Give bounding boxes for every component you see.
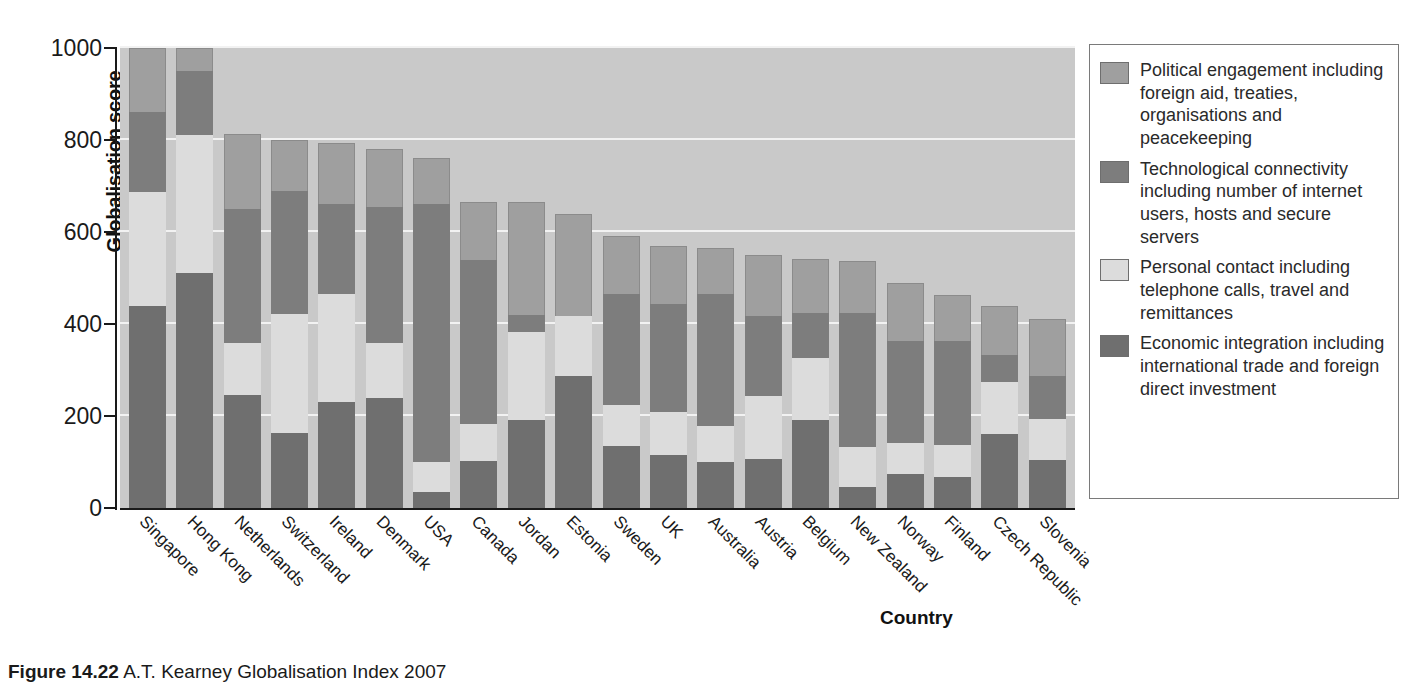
bar-segment-econ <box>650 455 687 508</box>
bar-segment-tech <box>413 204 450 462</box>
bar-segment-econ <box>129 306 166 508</box>
bar-segment-political <box>318 143 355 205</box>
legend-item-label: Political engagement including foreign a… <box>1140 59 1388 150</box>
bar-belgium[interactable] <box>792 259 829 508</box>
bar-segment-political <box>981 306 1018 355</box>
bar-segment-personal <box>650 412 687 455</box>
bar-segment-political <box>697 248 734 294</box>
bar-segment-tech <box>839 313 876 447</box>
y-tick-label-400: 400 <box>64 311 102 338</box>
bar-denmark[interactable] <box>366 149 403 508</box>
bar-segment-personal <box>460 424 497 461</box>
bar-segment-personal <box>603 405 640 445</box>
bar-segment-econ <box>224 395 261 508</box>
bar-estonia[interactable] <box>555 214 592 508</box>
bar-austria[interactable] <box>745 255 782 508</box>
bar-segment-political <box>934 295 971 341</box>
bar-netherlands[interactable] <box>224 134 261 508</box>
legend-swatch-icon-tech <box>1100 161 1129 183</box>
legend-item-0[interactable]: Political engagement including foreign a… <box>1100 59 1388 150</box>
bar-segment-econ <box>508 420 545 508</box>
bar-segment-tech <box>129 112 166 191</box>
bar-segment-tech <box>224 209 261 343</box>
bar-finland[interactable] <box>934 295 971 508</box>
gridline-800 <box>120 138 1075 140</box>
bar-segment-econ <box>934 477 971 508</box>
bar-segment-econ <box>555 376 592 508</box>
bar-segment-econ <box>460 461 497 508</box>
bar-segment-personal <box>366 343 403 398</box>
bar-slovenia[interactable] <box>1029 319 1066 508</box>
bar-segment-tech <box>508 315 545 332</box>
legend-swatch-icon-political <box>1100 62 1129 84</box>
gridline-200 <box>120 414 1075 416</box>
bar-segment-personal <box>745 396 782 459</box>
x-tick-label-estonia: Estonia <box>561 512 615 566</box>
bar-segment-econ <box>366 398 403 508</box>
y-axis-ticks: 10008006004002000 <box>42 30 116 520</box>
bar-segment-econ <box>176 273 213 508</box>
bar-segment-political <box>129 48 166 112</box>
bar-segment-political <box>224 134 261 209</box>
bar-segment-econ <box>271 433 308 508</box>
bar-segment-econ <box>318 402 355 508</box>
bar-segment-tech <box>650 304 687 412</box>
bar-czech-republic[interactable] <box>981 306 1018 508</box>
bar-segment-econ <box>792 420 829 508</box>
bar-new-zealand[interactable] <box>839 261 876 508</box>
bar-segment-political <box>1029 319 1066 376</box>
x-tick-label-finland: Finland <box>940 512 994 566</box>
gridline-400 <box>120 322 1075 324</box>
bar-canada[interactable] <box>460 202 497 508</box>
bar-segment-personal <box>129 192 166 306</box>
bar-ireland[interactable] <box>318 143 355 508</box>
bar-segment-tech <box>887 341 924 444</box>
legend-swatch-icon-personal <box>1100 259 1129 281</box>
gridline-1000 <box>120 46 1075 48</box>
bar-segment-tech <box>318 204 355 293</box>
bar-segment-econ <box>697 462 734 508</box>
bar-segment-personal <box>555 316 592 376</box>
bar-segment-tech <box>603 294 640 405</box>
bar-segment-political <box>792 259 829 312</box>
legend-item-label: Economic integration including internati… <box>1140 332 1388 400</box>
bar-segment-personal <box>934 445 971 476</box>
bar-segment-political <box>650 246 687 304</box>
bar-sweden[interactable] <box>603 236 640 508</box>
bar-segment-political <box>508 202 545 315</box>
bar-segment-personal <box>318 294 355 403</box>
bar-segment-econ <box>603 446 640 508</box>
bar-singapore[interactable] <box>129 48 166 508</box>
bar-segment-econ <box>413 492 450 508</box>
legend-item-1[interactable]: Technological connectivity including num… <box>1100 158 1388 249</box>
legend-item-3[interactable]: Economic integration including internati… <box>1100 332 1388 400</box>
bar-usa[interactable] <box>413 158 450 508</box>
bar-segment-political <box>413 158 450 204</box>
bar-uk[interactable] <box>650 246 687 508</box>
x-tick-label-belgium: Belgium <box>798 512 856 570</box>
bar-segment-tech <box>792 313 829 358</box>
bar-segment-political <box>271 140 308 191</box>
bar-australia[interactable] <box>697 248 734 508</box>
y-axis-line <box>115 47 117 510</box>
x-tick-label-canada: Canada <box>467 512 523 568</box>
bar-segment-tech <box>1029 376 1066 420</box>
bar-switzerland[interactable] <box>271 140 308 508</box>
bar-segment-tech <box>981 355 1018 382</box>
bar-norway[interactable] <box>887 283 924 508</box>
bar-segment-tech <box>366 207 403 344</box>
chart-legend: Political engagement including foreign a… <box>1089 44 1399 499</box>
bar-segment-econ <box>981 434 1018 508</box>
y-tick-label-200: 200 <box>64 403 102 430</box>
legend-item-2[interactable]: Personal contact including telephone cal… <box>1100 256 1388 324</box>
gridline-600 <box>120 230 1075 232</box>
bar-segment-tech <box>934 341 971 445</box>
bar-segment-personal <box>1029 419 1066 460</box>
bar-segment-personal <box>413 462 450 492</box>
bar-jordan[interactable] <box>508 202 545 508</box>
figure-number: Figure 14.22 <box>8 661 119 682</box>
bar-segment-econ <box>1029 460 1066 508</box>
bar-segment-personal <box>271 314 308 433</box>
bar-hong-kong[interactable] <box>176 48 213 508</box>
bar-segment-personal <box>224 343 261 395</box>
